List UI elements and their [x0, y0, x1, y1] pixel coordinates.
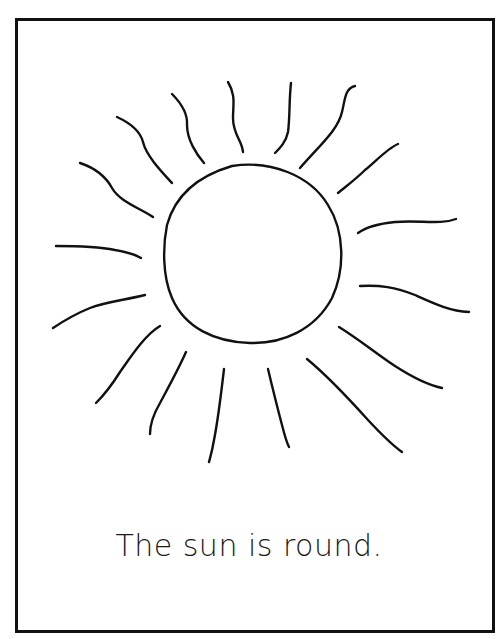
sun-ray	[307, 359, 402, 452]
sun-ray	[268, 369, 289, 447]
sun-ray	[117, 117, 172, 183]
sun-ray	[209, 369, 224, 462]
sun-ray	[275, 83, 291, 153]
sun-ray	[360, 286, 469, 312]
sun-ray	[150, 352, 186, 434]
sun-ray	[228, 82, 243, 152]
sun-ray	[80, 163, 153, 217]
sun-ray	[56, 246, 141, 258]
sun-ray	[358, 219, 456, 233]
sun-ray	[172, 94, 204, 163]
sun-circle	[164, 165, 341, 343]
sun-ray	[339, 327, 442, 388]
sun-ray	[300, 86, 355, 168]
sun-ray	[338, 144, 398, 193]
sun-ray	[96, 326, 160, 403]
caption-text: The sun is round.	[0, 528, 498, 563]
sun-ray	[53, 295, 145, 328]
